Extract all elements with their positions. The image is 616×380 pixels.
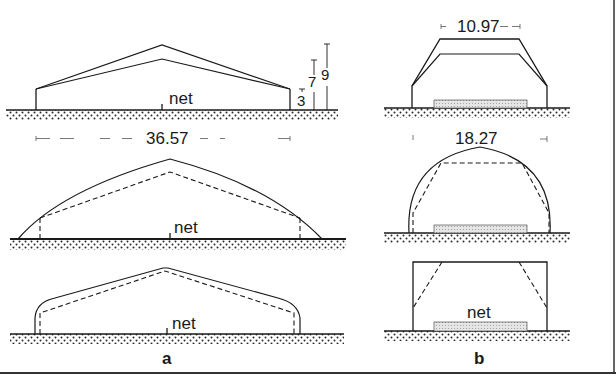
- diagram-b3-box-roof: net: [384, 262, 570, 341]
- roof-dashed: [40, 271, 294, 334]
- panel-a-label: a: [162, 349, 172, 368]
- net-strip: [434, 225, 527, 233]
- diagram-b1-trapezoid-roof: [384, 39, 570, 118]
- width-label-10-97: 10.97: [457, 17, 500, 36]
- net-strip: [434, 322, 527, 331]
- ground-hatch: [10, 334, 344, 344]
- court-ceiling-diagram: net 3 7 9 36.57: [0, 0, 616, 380]
- panel-a: net 3 7 9 36.57: [6, 44, 346, 368]
- dashed-brace-right: [519, 262, 547, 308]
- ground-hatch: [10, 239, 346, 250]
- diagram-a2-arched-roof: net: [10, 159, 346, 250]
- net-label: net: [169, 89, 193, 108]
- ground-hatch: [6, 110, 338, 120]
- dashed-brace-left: [413, 262, 442, 308]
- roof-low: [36, 59, 290, 89]
- span-label: 36.57: [146, 129, 189, 148]
- dome-solid: [409, 147, 550, 233]
- roof-high: [412, 39, 547, 108]
- net-label: net: [172, 314, 196, 333]
- ground-hatch: [384, 331, 570, 341]
- diagram-a1-pitched-roof: net 3 7 9: [6, 44, 338, 120]
- diagram-b2-dome-roof: [384, 147, 570, 243]
- roof-low: [412, 54, 547, 86]
- ground-hatch: [384, 233, 570, 243]
- height-label-7: 7: [308, 73, 316, 90]
- net-label: net: [467, 303, 491, 322]
- width-label-18-27: 18.27: [455, 129, 498, 148]
- height-label-3: 3: [297, 92, 305, 109]
- arch-solid: [18, 159, 322, 239]
- net-label: net: [174, 218, 198, 237]
- height-label-9: 9: [321, 66, 329, 83]
- dome-dashed: [413, 163, 549, 233]
- ground-hatch: [384, 108, 570, 118]
- roof-dashed: [40, 172, 300, 218]
- roof-high: [36, 45, 290, 89]
- panel-b-label: b: [474, 349, 484, 368]
- diagram-a3-rounded-roof: net: [10, 268, 344, 344]
- panel-b: 10.97 18.27: [384, 17, 570, 368]
- net-strip: [434, 100, 527, 108]
